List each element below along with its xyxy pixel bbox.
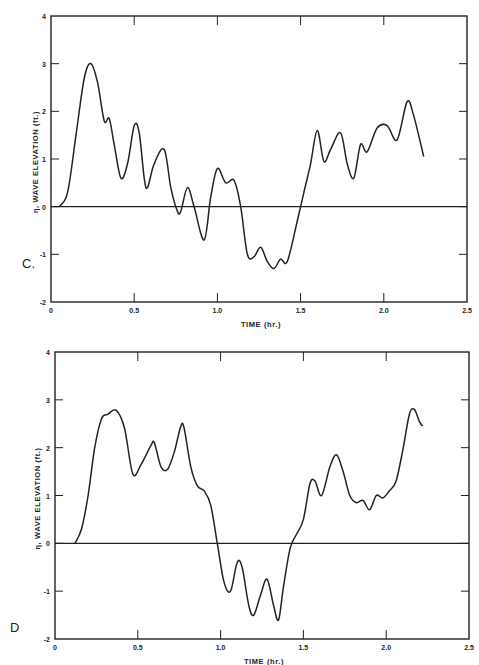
y-tick-label: 1: [42, 156, 46, 163]
y-tick-label: 4: [42, 13, 46, 20]
y-tick-label: -2: [44, 636, 50, 643]
y-tick-label: 1: [46, 493, 50, 500]
x-tick-label: 0.5: [133, 644, 143, 651]
y-tick-label: -2: [40, 299, 46, 306]
y-tick-label: -1: [44, 588, 50, 595]
x-tick-label: 2.5: [462, 307, 472, 314]
y-tick-label: 3: [42, 61, 46, 68]
x-tick-label: 0.5: [129, 307, 139, 314]
plot-frame: [55, 352, 469, 639]
y-tick-label: 2: [46, 445, 50, 452]
y-tick-label: 3: [46, 397, 50, 404]
chart-panel-d: 00.51.01.52.02.5-2-101234TIME (hr.)η, WA…: [10, 349, 474, 665]
x-tick-label: 2.5: [464, 644, 474, 651]
x-tick-label: 1.0: [216, 644, 226, 651]
x-axis-label: TIME (hr.): [241, 320, 281, 329]
y-tick-label: 2: [42, 108, 46, 115]
figure: 00.51.01.52.02.5-2-101234TIME (hr.)η, WA…: [0, 0, 479, 665]
x-tick-label: 2.0: [379, 307, 389, 314]
x-tick-label: 0: [53, 644, 57, 651]
y-tick-label: -1: [40, 251, 46, 258]
x-tick-label: 1.5: [296, 307, 306, 314]
x-tick-label: 1.5: [299, 644, 309, 651]
y-axis-label: η, WAVE ELEVATION (ft.): [33, 447, 42, 549]
panel-letter: C.: [22, 256, 35, 271]
y-tick-label: 0: [42, 204, 46, 211]
plot-frame: [51, 16, 467, 302]
wave-elevation-line: [59, 64, 423, 269]
x-axis-label: TIME (hr.): [244, 657, 284, 665]
chart-panel-c: 00.51.01.52.02.5-2-101234TIME (hr.)η, WA…: [22, 13, 472, 329]
y-tick-label: 0: [46, 540, 50, 547]
y-axis-label: η, WAVE ELEVATION (ft.): [31, 111, 40, 213]
wave-elevation-line: [75, 409, 423, 621]
panel-letter: D: [10, 620, 19, 635]
x-tick-label: 1.0: [213, 307, 223, 314]
y-tick-label: 4: [46, 349, 50, 356]
x-tick-label: 2.0: [381, 644, 391, 651]
x-tick-label: 0: [49, 307, 53, 314]
